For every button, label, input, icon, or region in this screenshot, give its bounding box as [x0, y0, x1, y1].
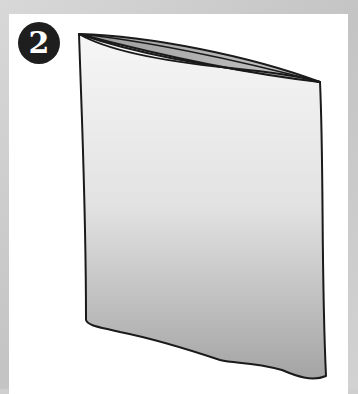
bag-body: [79, 34, 326, 378]
